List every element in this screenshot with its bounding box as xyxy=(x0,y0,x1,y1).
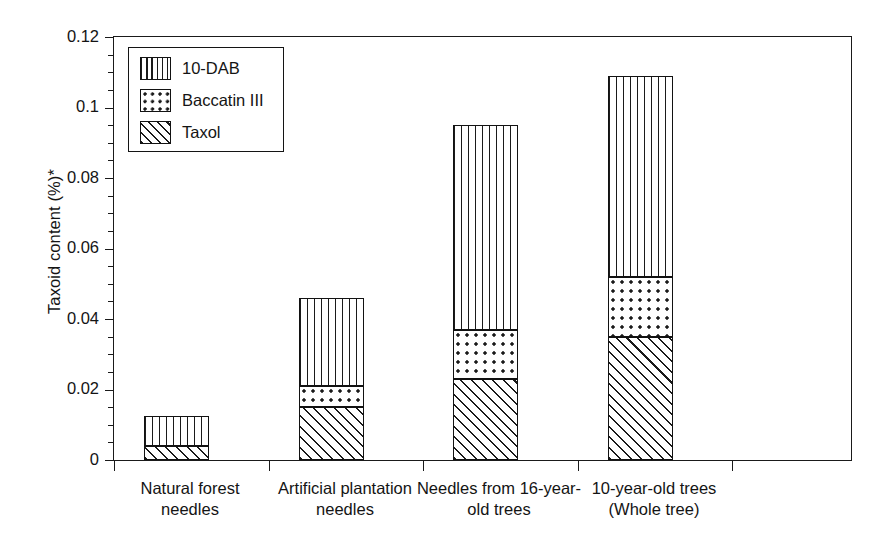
y-minor-tick-2 xyxy=(108,72,114,73)
bar-natural-forest-needles xyxy=(144,416,209,460)
bar-10-year-old-trees-whole-tree xyxy=(608,76,673,460)
segment-baccatin-iii xyxy=(299,386,364,407)
legend-swatch-vertical-lines-icon xyxy=(140,57,171,80)
y-major-tick-0.06 xyxy=(105,249,114,250)
y-major-tick-0.10 xyxy=(105,108,114,109)
legend-item-baccatin-iii: Baccatin III xyxy=(140,87,264,113)
y-minor-tick-7 xyxy=(108,196,114,197)
y-tick-label-0.06: 0.06 xyxy=(33,239,99,256)
x-tick-2 xyxy=(423,460,424,471)
y-minor-tick-1 xyxy=(108,55,114,56)
y-minor-tick-14 xyxy=(108,354,114,355)
y-major-tick-0.12 xyxy=(105,37,114,38)
legend-swatch-dots-icon xyxy=(140,89,171,112)
legend: 10-DAB Baccatin III Taxol xyxy=(128,47,284,152)
y-minor-tick-13 xyxy=(108,337,114,338)
y-tick-label-0.12: 0.12 xyxy=(33,28,99,45)
x-category-line-2: (Whole tree) xyxy=(549,499,759,520)
segment-taxol xyxy=(608,337,673,460)
legend-swatch-diagonal-hatch-icon xyxy=(140,121,171,144)
segment-baccatin-iii xyxy=(608,277,673,337)
plot-area: 10-DAB Baccatin III Taxol xyxy=(113,36,852,461)
x-tick-0 xyxy=(114,460,115,471)
legend-item-10-dab: 10-DAB xyxy=(140,55,240,81)
y-minor-tick-4 xyxy=(108,125,114,126)
y-minor-tick-10 xyxy=(108,266,114,267)
segment-taxol xyxy=(299,407,364,460)
x-tick-4 xyxy=(732,460,733,471)
legend-label-10-dab: 10-DAB xyxy=(182,59,240,78)
y-minor-tick-3 xyxy=(108,90,114,91)
legend-item-taxol: Taxol xyxy=(140,119,221,145)
y-minor-tick-15 xyxy=(108,372,114,373)
segment-10-dab xyxy=(453,125,518,330)
y-minor-tick-11 xyxy=(108,284,114,285)
figure-stacked-bar-chart: Taxoid content (%)* 0.12 0.1 0.08 0.06 0… xyxy=(0,0,891,543)
y-minor-tick-16 xyxy=(108,407,114,408)
x-tick-3 xyxy=(578,460,579,471)
segment-taxol xyxy=(453,379,518,460)
y-tick-label-0.02: 0.02 xyxy=(33,380,99,397)
y-major-tick-0.02 xyxy=(105,390,114,391)
x-category-line-1: 10-year-old trees xyxy=(549,478,759,499)
y-major-tick-0.08 xyxy=(105,178,114,179)
y-tick-label-0.1: 0.1 xyxy=(33,98,99,115)
segment-10-dab xyxy=(299,298,364,386)
legend-label-taxol: Taxol xyxy=(182,123,221,142)
x-tick-1 xyxy=(269,460,270,471)
segment-taxol xyxy=(144,446,209,460)
y-tick-label-0.08: 0.08 xyxy=(33,169,99,186)
y-minor-tick-17 xyxy=(108,425,114,426)
y-tick-label-0.04: 0.04 xyxy=(33,310,99,327)
y-minor-tick-9 xyxy=(108,231,114,232)
bar-artificial-plantation-needles xyxy=(299,298,364,460)
y-minor-tick-12 xyxy=(108,301,114,302)
bar-needles-from-16-year-old-trees xyxy=(453,125,518,460)
segment-10-dab xyxy=(608,76,673,277)
y-tick-label-0: 0 xyxy=(33,451,99,468)
legend-label-baccatin-iii: Baccatin III xyxy=(182,91,264,110)
y-minor-tick-8 xyxy=(108,213,114,214)
y-minor-tick-5 xyxy=(108,143,114,144)
y-minor-tick-6 xyxy=(108,160,114,161)
y-major-tick-0 xyxy=(105,460,114,461)
y-major-tick-0.04 xyxy=(105,319,114,320)
segment-10-dab xyxy=(144,416,209,446)
segment-baccatin-iii xyxy=(453,330,518,379)
x-category-label-10-year-old-trees-whole-tree: 10-year-old trees (Whole tree) xyxy=(549,478,759,520)
y-minor-tick-18 xyxy=(108,442,114,443)
